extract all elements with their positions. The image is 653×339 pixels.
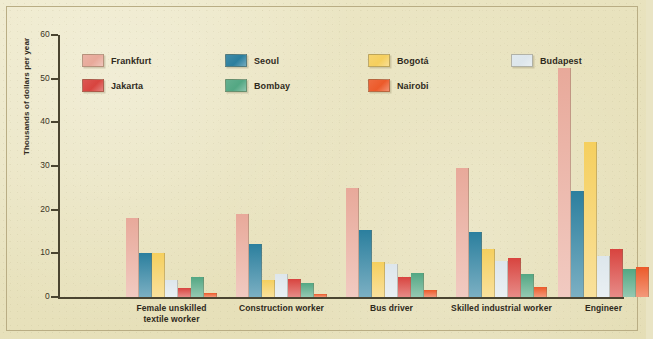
bar — [584, 142, 597, 297]
bar-group-bars — [558, 35, 649, 297]
bar — [359, 230, 372, 297]
bar — [301, 283, 314, 297]
bar-group: Construction worker — [236, 35, 327, 297]
bar — [314, 294, 327, 297]
bar — [152, 253, 165, 297]
bar-group: Skilled industrial worker — [456, 35, 547, 297]
bar — [126, 218, 139, 297]
bar — [178, 288, 191, 297]
bar — [165, 280, 178, 297]
bar-group-bars — [236, 35, 327, 297]
bar — [275, 274, 288, 297]
bar — [191, 277, 204, 297]
bar — [236, 214, 249, 297]
plot-area: 0102030405060Female unskilled textile wo… — [58, 35, 624, 297]
bar — [456, 168, 469, 297]
y-axis-tick — [51, 78, 58, 80]
x-axis-line — [58, 297, 624, 299]
y-axis-tick-label: 30 — [28, 160, 50, 170]
bar — [636, 267, 649, 297]
bar — [469, 232, 482, 297]
y-axis-tick-label: 40 — [28, 116, 50, 126]
bar-group: Female unskilled textile worker — [126, 35, 217, 297]
bar — [139, 253, 152, 297]
y-axis-tick-label: 10 — [28, 247, 50, 257]
bar — [411, 273, 424, 297]
y-axis-tick-label: 60 — [28, 29, 50, 39]
bar — [558, 68, 571, 297]
bar — [495, 261, 508, 297]
y-axis-line — [58, 35, 60, 297]
bar-group: Engineer — [558, 35, 649, 297]
bar — [204, 293, 217, 297]
bar — [288, 279, 301, 297]
y-axis-tick — [51, 165, 58, 167]
bar — [623, 269, 636, 297]
x-axis-category-label: Engineer — [530, 303, 653, 314]
bar — [346, 188, 359, 297]
y-axis-tick — [51, 296, 58, 298]
y-axis-title: Thousands of dollars per year — [22, 38, 31, 155]
y-axis-tick-label: 20 — [28, 204, 50, 214]
y-axis-tick — [51, 209, 58, 211]
bar-group: Bus driver — [346, 35, 437, 297]
bar-group-bars — [126, 35, 217, 297]
bar-group-bars — [346, 35, 437, 297]
bar — [571, 191, 584, 297]
bar — [398, 277, 411, 297]
bar — [508, 258, 521, 297]
bar — [262, 280, 275, 297]
bar — [597, 256, 610, 297]
y-axis-tick-label: 50 — [28, 73, 50, 83]
bar — [610, 249, 623, 297]
bar — [482, 249, 495, 297]
bar — [424, 290, 437, 297]
y-axis-tick — [51, 252, 58, 254]
bar — [521, 274, 534, 297]
y-axis-tick-label: 0 — [28, 291, 50, 301]
bar — [534, 287, 547, 297]
bar-group-bars — [456, 35, 547, 297]
bar — [385, 264, 398, 297]
bar — [372, 262, 385, 297]
bar — [249, 244, 262, 297]
y-axis-tick — [51, 121, 58, 123]
y-axis-tick — [51, 34, 58, 36]
